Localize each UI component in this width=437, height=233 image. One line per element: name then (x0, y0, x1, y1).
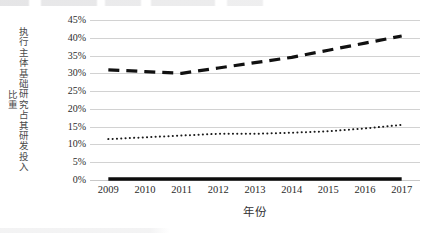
data-series-layer (90, 20, 420, 180)
scan-artifact-bottom (0, 228, 437, 233)
y-tick-20%: 20% (56, 104, 86, 114)
y-tick-0%: 0% (56, 175, 86, 185)
scan-artifact-top (0, 0, 437, 6)
y-tick-15%: 15% (56, 122, 86, 132)
x-axis-tick-labels: 200920102011201220132014201520162017 (90, 184, 420, 200)
y-tick-30%: 30% (56, 68, 86, 78)
plot-area (90, 20, 420, 180)
y-axis-title: 执行主体基础研究占其研发投入 比重 (0, 14, 34, 186)
y-axis-title-line-1: 执行主体基础研究占其研发投入 (17, 27, 28, 173)
y-axis-title-line-2: 比重 (6, 90, 17, 111)
y-tick-40%: 40% (56, 33, 86, 43)
series-dashed (108, 36, 401, 73)
y-tick-45%: 45% (56, 15, 86, 25)
y-tick-25%: 25% (56, 86, 86, 96)
y-tick-35%: 35% (56, 51, 86, 61)
y-axis-tick-labels: 0%5%10%15%20%25%30%35%40%45% (52, 20, 86, 180)
x-tick-2017: 2017 (380, 184, 424, 195)
y-tick-10%: 10% (56, 139, 86, 149)
chart-figure: 执行主体基础研究占其研发投入 比重 0%5%10%15%20%25%30%35%… (0, 0, 437, 233)
x-axis-title: 年份 (90, 203, 420, 219)
y-tick-5%: 5% (56, 157, 86, 167)
series-dotted (108, 125, 401, 139)
